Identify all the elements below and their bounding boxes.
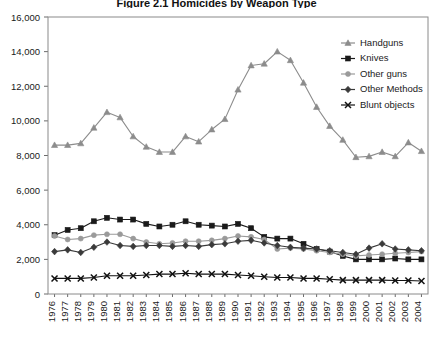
data-point-square bbox=[104, 215, 109, 220]
data-point-circle bbox=[346, 72, 351, 77]
data-point-square bbox=[222, 224, 227, 229]
data-point-square bbox=[380, 257, 385, 262]
x-tick-label: 1980 bbox=[98, 301, 109, 322]
x-tick-label: 1992 bbox=[255, 301, 266, 322]
data-point-diamond bbox=[117, 242, 123, 249]
data-point-circle bbox=[65, 237, 70, 242]
x-tick-label: 1990 bbox=[229, 301, 240, 322]
x-tick-label: 1995 bbox=[295, 301, 306, 322]
data-point-diamond bbox=[379, 240, 385, 247]
series-blunt-objects bbox=[52, 270, 425, 284]
homicides-by-weapon-type-chart: Figure 2.1 Homicides by Weapon Type 02,0… bbox=[0, 0, 433, 340]
x-tick-label: 2001 bbox=[373, 301, 384, 322]
data-point-triangle bbox=[418, 148, 424, 154]
legend-item-other-guns[interactable]: Other guns bbox=[341, 68, 407, 79]
data-point-circle bbox=[104, 232, 109, 237]
x-tick-label: 1998 bbox=[334, 301, 345, 322]
data-point-square bbox=[131, 217, 136, 222]
y-tick-label: 8,000 bbox=[16, 150, 40, 161]
data-point-diamond bbox=[183, 242, 189, 249]
legend-item-other-methods[interactable]: Other Methods bbox=[341, 83, 423, 94]
legend-label: Knives bbox=[360, 52, 389, 63]
data-point-triangle bbox=[182, 133, 188, 139]
data-point-diamond bbox=[209, 241, 215, 248]
data-point-triangle bbox=[235, 87, 241, 93]
data-point-square bbox=[236, 221, 241, 226]
x-tick-label: 2000 bbox=[360, 301, 371, 322]
data-point-triangle bbox=[287, 57, 293, 63]
data-point-circle bbox=[380, 252, 385, 257]
x-tick-label: 1996 bbox=[308, 301, 319, 322]
data-point-diamond bbox=[104, 239, 110, 246]
data-point-square bbox=[65, 227, 70, 232]
data-point-diamond bbox=[52, 248, 58, 255]
data-point-square bbox=[183, 219, 188, 224]
legend-item-knives[interactable]: Knives bbox=[341, 52, 389, 63]
data-point-square bbox=[288, 236, 293, 241]
legend-item-handguns[interactable]: Handguns bbox=[341, 37, 404, 48]
data-point-circle bbox=[52, 234, 57, 239]
data-point-diamond bbox=[222, 240, 228, 247]
data-point-square bbox=[275, 236, 280, 241]
x-tick-label: 1991 bbox=[242, 301, 253, 322]
data-point-diamond bbox=[392, 246, 398, 253]
y-tick-label: 0 bbox=[35, 289, 40, 300]
data-point-diamond bbox=[345, 86, 351, 93]
data-point-triangle bbox=[379, 149, 385, 155]
series-other-guns bbox=[52, 232, 424, 259]
y-tick-label: 6,000 bbox=[16, 185, 40, 196]
y-tick-label: 2,000 bbox=[16, 254, 40, 265]
chart-title: Figure 2.1 Homicides by Weapon Type bbox=[0, 0, 433, 8]
x-tick-label: 2003 bbox=[399, 301, 410, 322]
y-tick-label: 16,000 bbox=[11, 12, 40, 23]
x-tick-label: 1977 bbox=[59, 301, 70, 322]
data-point-diamond bbox=[130, 243, 136, 250]
data-point-diamond bbox=[78, 249, 84, 256]
data-point-diamond bbox=[235, 238, 241, 245]
y-tick-label: 12,000 bbox=[11, 81, 40, 92]
data-point-square bbox=[209, 223, 214, 228]
x-tick-label: 1976 bbox=[46, 301, 57, 322]
data-point-diamond bbox=[91, 244, 97, 251]
x-tick-label: 1993 bbox=[268, 301, 279, 322]
x-axis: 1976197719781979198019811982198319841985… bbox=[46, 294, 424, 322]
x-tick-label: 1997 bbox=[321, 301, 332, 322]
x-tick-label: 2002 bbox=[386, 301, 397, 322]
data-point-square bbox=[196, 222, 201, 227]
legend-item-blunt-objects[interactable]: Blunt objects bbox=[341, 99, 415, 110]
data-point-square bbox=[393, 256, 398, 261]
x-tick-label: 1986 bbox=[177, 301, 188, 322]
data-point-square bbox=[157, 224, 162, 229]
data-point-circle bbox=[131, 236, 136, 241]
data-point-triangle bbox=[104, 109, 110, 115]
data-point-square bbox=[346, 56, 351, 61]
data-point-square bbox=[170, 222, 175, 227]
data-point-square bbox=[91, 219, 96, 224]
data-point-triangle bbox=[405, 139, 411, 145]
data-point-circle bbox=[367, 253, 372, 258]
x-tick-label: 1994 bbox=[281, 301, 292, 322]
data-point-square bbox=[249, 226, 254, 231]
x-tick-label: 2004 bbox=[412, 301, 423, 322]
data-point-triangle bbox=[222, 116, 228, 122]
data-point-triangle bbox=[300, 80, 306, 86]
x-tick-label: 1987 bbox=[190, 301, 201, 322]
x-tick-label: 1985 bbox=[163, 301, 174, 322]
data-point-square bbox=[78, 226, 83, 231]
legend-label: Other Methods bbox=[360, 83, 423, 94]
x-tick-label: 1999 bbox=[347, 301, 358, 322]
x-tick-label: 1979 bbox=[85, 301, 96, 322]
y-tick-label: 10,000 bbox=[11, 115, 40, 126]
data-point-circle bbox=[78, 236, 83, 241]
data-point-circle bbox=[91, 233, 96, 238]
data-point-square bbox=[406, 257, 411, 262]
data-point-triangle bbox=[314, 104, 320, 110]
data-point-diamond bbox=[65, 247, 71, 254]
data-point-triangle bbox=[274, 48, 280, 54]
y-axis: 02,0004,0006,0008,00010,00012,00014,0001… bbox=[11, 12, 48, 300]
x-tick-label: 1989 bbox=[216, 301, 227, 322]
x-tick-label: 1981 bbox=[111, 301, 122, 322]
data-point-diamond bbox=[196, 243, 202, 250]
x-tick-label: 1988 bbox=[203, 301, 214, 322]
x-tick-label: 1978 bbox=[72, 301, 83, 322]
